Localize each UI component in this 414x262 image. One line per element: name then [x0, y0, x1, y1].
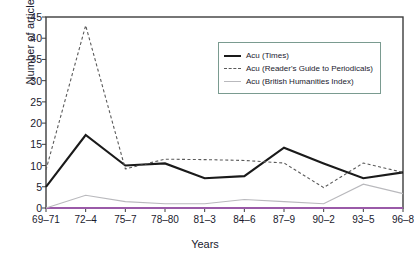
- data-series-line: [46, 135, 403, 187]
- legend-line-thin-icon: [224, 76, 241, 86]
- x-axis-tick-label: 87–9: [273, 214, 295, 225]
- legend-item: Acu (Reader's Guide to Periodicals): [224, 62, 373, 74]
- legend-item: Acu (British Humanities Index): [224, 75, 373, 87]
- x-axis-tick-label: 93–5: [352, 214, 374, 225]
- x-axis-tick-label: 72–4: [75, 214, 97, 225]
- x-axis-tick-label: 84–6: [233, 214, 255, 225]
- chart-legend: Acu (Times) Acu (Reader's Guide to Perio…: [218, 42, 381, 94]
- x-axis-tick-label: 75–7: [114, 214, 136, 225]
- y-axis-title: Number of articles: [24, 0, 36, 119]
- x-axis-tick-label: 96–8: [392, 214, 414, 225]
- legend-item: Acu (Times): [224, 49, 373, 61]
- data-series-line: [46, 184, 403, 208]
- x-axis-title: Years: [0, 238, 410, 250]
- x-axis-tick-label: 78–80: [151, 214, 179, 225]
- x-axis-tick-label: 81–3: [194, 214, 216, 225]
- y-axis-title-wrapper: Number of articles: [2, 18, 24, 208]
- legend-item-label: Acu (Times): [246, 51, 289, 60]
- legend-line-dashed-icon: [224, 63, 241, 73]
- legend-line-solid-icon: [224, 50, 241, 60]
- legend-item-label: Acu (British Humanities Index): [246, 77, 354, 86]
- x-axis-tick-label: 69–71: [32, 214, 60, 225]
- x-axis-tick-label: 90–2: [313, 214, 335, 225]
- legend-item-label: Acu (Reader's Guide to Periodicals): [246, 64, 373, 73]
